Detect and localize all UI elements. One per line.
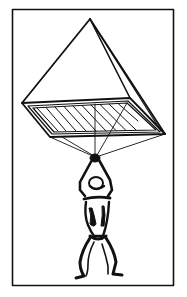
hanging-figure [76,154,122,278]
parachute-illustration [0,0,187,297]
canopy-edge-back-right [90,19,130,98]
figure-torso [85,202,109,236]
pyramid-canopy [22,19,165,137]
canopy-inner-panel [33,103,156,132]
figure-shoulders [84,197,110,199]
canopy-hatching [37,104,138,132]
canopy-edge-front-right-inner [93,24,161,131]
canopy-edge-left [22,19,90,103]
figure-left-arm [80,160,92,196]
